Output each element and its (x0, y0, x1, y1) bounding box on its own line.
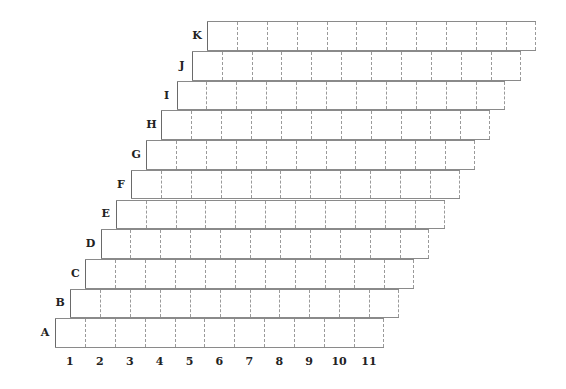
grid-row-i (177, 81, 506, 111)
row-label-e: E (99, 208, 113, 220)
column-label-5: 5 (175, 356, 205, 368)
grid-cell (339, 290, 369, 318)
grid-cell (190, 290, 220, 318)
grid-cell (204, 319, 234, 347)
grid-cell (341, 111, 371, 139)
grid-cell (430, 171, 460, 199)
grid-cell (190, 230, 220, 258)
grid-cell (101, 230, 131, 258)
grid-row-f (131, 170, 460, 200)
grid-cell (327, 22, 357, 50)
grid-cell (220, 230, 250, 258)
grid-cell (296, 141, 326, 169)
grid-cell (369, 290, 399, 318)
column-label-7: 7 (234, 356, 264, 368)
grid-row-c (85, 259, 414, 289)
grid-cell (221, 111, 251, 139)
grid-cell (251, 111, 281, 139)
grid-cell (265, 201, 295, 229)
grid-cell (252, 52, 282, 80)
grid-cell (401, 111, 431, 139)
grid-cell (296, 82, 326, 110)
grid-cell (279, 290, 309, 318)
grid-cell (160, 230, 190, 258)
grid-cell (266, 141, 296, 169)
grid-cell (146, 141, 176, 169)
grid-cell (416, 82, 446, 110)
grid-cell (446, 22, 476, 50)
grid-cell (176, 141, 206, 169)
grid-cell (115, 260, 145, 288)
grid-cell (160, 290, 190, 318)
grid-cell (192, 52, 222, 80)
grid-cell (384, 260, 414, 288)
grid-cell (280, 171, 310, 199)
grid-row-j (192, 51, 521, 81)
grid-row-k (207, 21, 536, 51)
column-label-8: 8 (264, 356, 294, 368)
column-label-9: 9 (294, 356, 324, 368)
grid-row-g (146, 140, 475, 170)
grid-cell (191, 111, 221, 139)
grid-cell (310, 230, 340, 258)
grid-cell (415, 141, 445, 169)
grid-cell (281, 52, 311, 80)
grid-cell (325, 201, 355, 229)
grid-cell (175, 319, 205, 347)
grid-cell (370, 171, 400, 199)
grid-cell (325, 260, 355, 288)
row-label-b: B (53, 297, 67, 309)
row-label-f: F (114, 179, 128, 191)
grid-row-a (55, 318, 384, 348)
row-label-i: I (160, 90, 174, 102)
grid-cell (294, 319, 324, 347)
grid-cell (251, 171, 281, 199)
column-label-2: 2 (85, 356, 115, 368)
grid-cell (205, 260, 235, 288)
grid-cell (146, 201, 176, 229)
grid-cell (235, 260, 265, 288)
grid-cell (234, 319, 264, 347)
grid-cell (354, 319, 384, 347)
grid-cell (445, 141, 475, 169)
grid-cell (415, 201, 445, 229)
grid-cell (130, 230, 160, 258)
grid-cell (400, 171, 430, 199)
grid-cell (416, 22, 446, 50)
grid-cell (280, 230, 310, 258)
grid-cell (250, 290, 280, 318)
grid-cell (236, 141, 266, 169)
grid-cell (326, 82, 356, 110)
grid-cell (460, 111, 490, 139)
grid-cell (295, 260, 325, 288)
grid-cell (340, 171, 370, 199)
grid-cell (370, 230, 400, 258)
grid-cell (100, 290, 130, 318)
grid-cell (476, 82, 506, 110)
grid-cell (386, 22, 416, 50)
grid-cell (85, 319, 115, 347)
grid-cell (356, 22, 386, 50)
row-label-j: J (175, 60, 189, 72)
grid-cell (309, 290, 339, 318)
grid-cell (175, 260, 205, 288)
column-label-10: 10 (324, 356, 354, 368)
grid-row-e (116, 200, 445, 230)
grid-cell (385, 141, 415, 169)
grid-cell (115, 319, 145, 347)
grid-cell (355, 141, 385, 169)
grid-cell (176, 201, 206, 229)
grid-cell (324, 319, 354, 347)
grid-cell (205, 201, 235, 229)
grid-cell (386, 82, 416, 110)
grid-cell (145, 319, 175, 347)
grid-cell (161, 171, 191, 199)
grid-cell (491, 52, 521, 80)
grid-row-d (101, 229, 430, 259)
grid-cell (265, 260, 295, 288)
grid-cell (340, 230, 370, 258)
column-label-11: 11 (354, 356, 384, 368)
grid-cell (430, 111, 460, 139)
grid-cell (355, 201, 385, 229)
row-label-c: C (68, 268, 82, 280)
